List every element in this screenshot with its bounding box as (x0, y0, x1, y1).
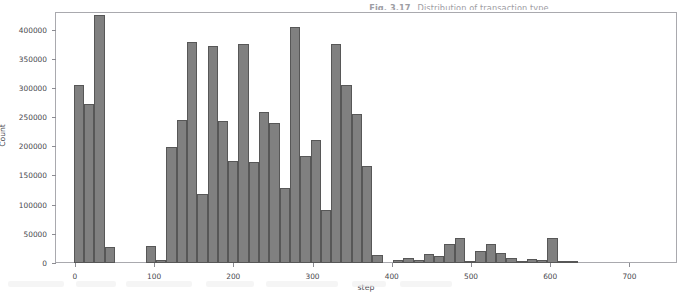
histogram-bar (208, 46, 218, 263)
histogram-bar (321, 210, 331, 263)
page-artifact (400, 281, 452, 287)
histogram-bar (84, 104, 94, 263)
histogram-bar (331, 44, 341, 263)
x-tick-mark (233, 263, 234, 267)
page-artifact (8, 281, 64, 287)
page-artifact (352, 281, 386, 287)
x-tick-mark (154, 263, 155, 267)
histogram-bar (146, 246, 156, 263)
x-tick-mark (471, 263, 472, 267)
y-tick-mark (52, 205, 56, 206)
histogram-bar (300, 156, 310, 263)
y-axis: Count 0500001000001500002000002500003000… (0, 0, 56, 293)
histogram-bar (74, 85, 84, 263)
histogram-bar (486, 244, 496, 263)
histogram-bar (166, 147, 176, 263)
y-tick-label: 300000 (19, 83, 47, 92)
histogram-bar (444, 244, 454, 263)
x-tick-mark (550, 263, 551, 267)
histogram-bar (280, 188, 290, 263)
histogram-bar (177, 120, 187, 263)
histogram-bar (547, 238, 557, 263)
histogram-bar (94, 15, 104, 263)
x-tick-mark (75, 263, 76, 267)
histogram-bar (372, 255, 382, 263)
histogram-bar (218, 121, 228, 263)
histogram-bar (424, 254, 434, 263)
y-tick-mark (52, 175, 56, 176)
histogram-chart: Count 0500001000001500002000002500003000… (0, 0, 688, 293)
y-tick-label: 250000 (19, 113, 47, 122)
x-tick-label: 500 (464, 272, 478, 281)
y-tick-label: 100000 (19, 200, 47, 209)
x-tick-mark (392, 263, 393, 267)
y-tick-label: 400000 (19, 25, 47, 34)
y-tick-label: 200000 (19, 142, 47, 151)
y-axis-title: Count (0, 124, 7, 147)
x-tick-label: 0 (72, 272, 77, 281)
y-tick-label: 150000 (19, 171, 47, 180)
histogram-bar (290, 27, 300, 263)
y-tick-mark (52, 88, 56, 89)
y-tick-mark (52, 117, 56, 118)
histogram-bar (249, 162, 259, 263)
y-tick-label: 50000 (23, 229, 47, 238)
x-axis: step 0100200300400500600700 (0, 263, 688, 293)
histogram-bar (341, 85, 351, 263)
histogram-bar (455, 238, 465, 263)
y-tick-mark (52, 146, 56, 147)
histogram-bar (496, 253, 506, 263)
x-tick-label: 400 (385, 272, 399, 281)
histogram-bar (197, 194, 207, 263)
x-tick-label: 200 (226, 272, 240, 281)
y-tick-mark (52, 234, 56, 235)
x-tick-label: 300 (305, 272, 319, 281)
x-tick-label: 600 (543, 272, 557, 281)
page-artifact (76, 281, 116, 287)
histogram-bar (475, 251, 485, 263)
histogram-bar (228, 161, 238, 263)
histogram-bar (105, 247, 115, 263)
x-tick-label: 700 (622, 272, 636, 281)
y-tick-mark (52, 30, 56, 31)
x-tick-mark (313, 263, 314, 267)
histogram-bar (434, 256, 444, 263)
histogram-bar (187, 42, 197, 263)
bars-layer (55, 12, 677, 263)
histogram-bar (238, 44, 248, 263)
page-artifact (126, 281, 192, 287)
histogram-bar (259, 112, 269, 263)
histogram-bar (311, 140, 321, 263)
histogram-bar (362, 166, 372, 263)
histogram-bar (352, 114, 362, 263)
histogram-bar (269, 123, 279, 263)
x-tick-label: 100 (147, 272, 161, 281)
page-artifact (266, 281, 338, 287)
y-tick-label: 350000 (19, 54, 47, 63)
x-tick-mark (629, 263, 630, 267)
y-tick-mark (52, 59, 56, 60)
page-artifact (206, 281, 254, 287)
